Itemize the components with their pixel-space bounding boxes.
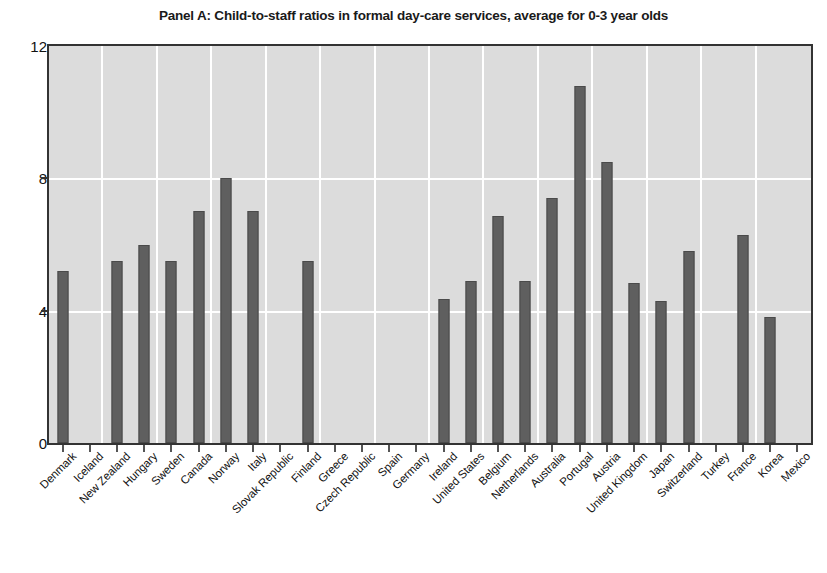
- bar[interactable]: [765, 317, 776, 443]
- bar[interactable]: [629, 283, 640, 443]
- bar-slot: [512, 46, 539, 443]
- bar-slot: [675, 46, 702, 443]
- bar-slot: [294, 46, 321, 443]
- bar-slot: [321, 46, 348, 443]
- bar-slot: [729, 46, 756, 443]
- bar[interactable]: [112, 261, 123, 443]
- chart-title: Panel A: Child-to-staff ratios in formal…: [0, 8, 827, 23]
- bar[interactable]: [520, 281, 531, 443]
- bar-slot: [648, 46, 675, 443]
- bar[interactable]: [193, 211, 204, 443]
- chart-root: Panel A: Child-to-staff ratios in formal…: [0, 0, 827, 573]
- bar[interactable]: [683, 251, 694, 443]
- bar[interactable]: [139, 245, 150, 444]
- bar[interactable]: [547, 198, 558, 443]
- bar-slot: [376, 46, 403, 443]
- bar[interactable]: [302, 261, 313, 443]
- bar-slot: [158, 46, 185, 443]
- bar[interactable]: [220, 178, 231, 443]
- bars-layer: [49, 46, 811, 443]
- bar[interactable]: [601, 162, 612, 443]
- bar[interactable]: [574, 86, 585, 443]
- bar-slot: [702, 46, 729, 443]
- y-tick-label: 12: [11, 38, 47, 55]
- y-tick-label: 0: [11, 435, 47, 452]
- bar[interactable]: [493, 216, 504, 443]
- bar-slot: [784, 46, 811, 443]
- bar-slot: [484, 46, 511, 443]
- bar-slot: [348, 46, 375, 443]
- bar-slot: [212, 46, 239, 443]
- bar-slot: [457, 46, 484, 443]
- bar-slot: [240, 46, 267, 443]
- bar-slot: [131, 46, 158, 443]
- bar-slot: [566, 46, 593, 443]
- bar-slot: [49, 46, 76, 443]
- bar-slot: [757, 46, 784, 443]
- bar[interactable]: [248, 211, 259, 443]
- bar-slot: [593, 46, 620, 443]
- bar[interactable]: [465, 281, 476, 443]
- bar-slot: [403, 46, 430, 443]
- bar-slot: [539, 46, 566, 443]
- bar[interactable]: [57, 271, 68, 443]
- bar[interactable]: [438, 299, 449, 443]
- bar-slot: [267, 46, 294, 443]
- y-axis: 04812: [0, 44, 47, 445]
- bar-slot: [185, 46, 212, 443]
- bar-slot: [76, 46, 103, 443]
- bar-slot: [430, 46, 457, 443]
- bar[interactable]: [737, 235, 748, 443]
- bar[interactable]: [166, 261, 177, 443]
- bar[interactable]: [656, 301, 667, 443]
- bar-slot: [621, 46, 648, 443]
- bar-slot: [103, 46, 130, 443]
- x-axis-labels: DenmarkIcelandNew ZealandHungarySwedenCa…: [0, 450, 827, 573]
